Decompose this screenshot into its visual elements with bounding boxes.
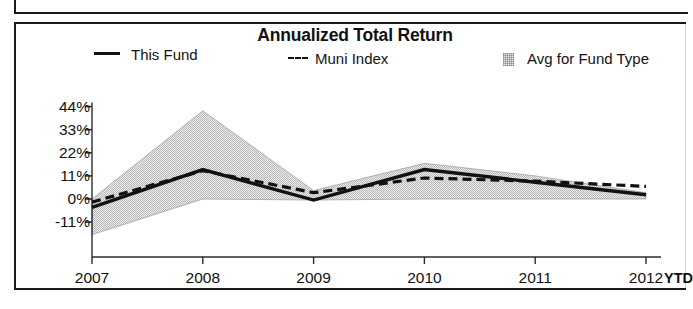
x-axis-label-2007: 2007: [75, 270, 109, 286]
x-axis-label-2008: 2008: [186, 270, 220, 286]
x-axis-label-2009: 2009: [296, 270, 330, 286]
x-axis-tick-labels: 200720082009201020112012YTD: [16, 24, 688, 292]
x-axis-label-ytd: YTD: [664, 271, 693, 286]
x-axis-label-2010: 2010: [407, 270, 441, 286]
x-axis-label-2012: 2012: [629, 270, 663, 286]
x-axis-label-2011: 2011: [519, 270, 552, 286]
previous-section-partial-box: [14, 0, 688, 14]
annualized-total-return-chart-panel: Annualized Total Return This Fund Muni I…: [14, 22, 686, 290]
